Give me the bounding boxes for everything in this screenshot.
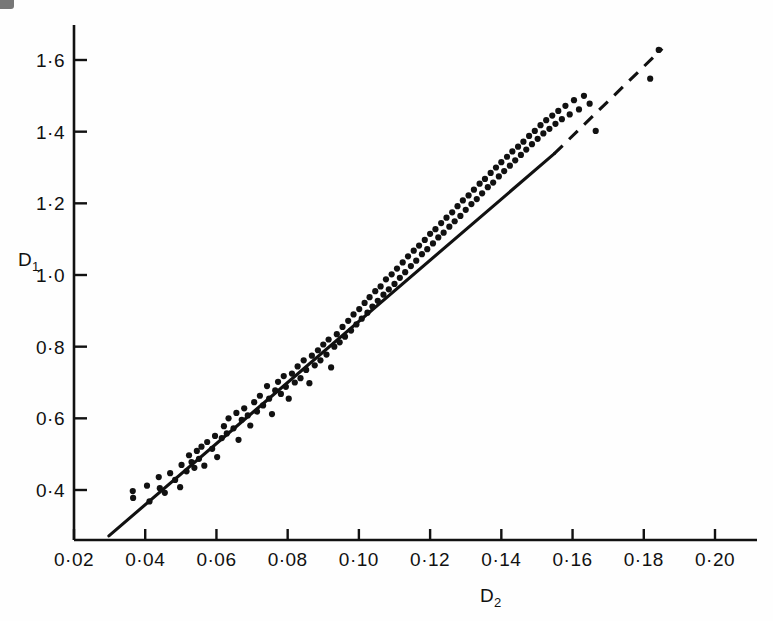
data-point	[432, 226, 438, 232]
data-point	[562, 103, 568, 109]
data-point	[339, 324, 345, 330]
data-point	[504, 154, 510, 160]
data-point	[188, 459, 194, 465]
data-point	[647, 76, 653, 82]
data-point	[320, 341, 326, 347]
data-point	[526, 133, 532, 139]
y-tick-label-3: 1·0	[36, 265, 65, 286]
data-point	[130, 495, 136, 501]
data-point	[559, 116, 565, 122]
data-point	[198, 444, 204, 450]
data-point	[204, 439, 210, 445]
data-point	[167, 470, 173, 476]
data-point	[523, 146, 529, 152]
data-point	[221, 423, 227, 429]
data-point	[509, 148, 515, 154]
data-point	[247, 422, 253, 428]
data-point	[235, 437, 241, 443]
data-point	[375, 298, 381, 304]
data-point	[369, 303, 375, 309]
data-point	[301, 357, 307, 363]
data-point	[490, 179, 496, 185]
data-point	[383, 276, 389, 282]
x-axis-title-letter: D	[480, 585, 494, 606]
x-axis-tick-labels: 0·020·040·060·080·100·120·140·160·180·20	[54, 549, 735, 570]
data-point	[529, 141, 535, 147]
data-point	[477, 181, 483, 187]
data-point	[225, 415, 231, 421]
figure-container: 0·020·040·060·080·100·120·140·160·180·20…	[0, 0, 773, 621]
data-point	[488, 170, 494, 176]
data-point	[177, 484, 183, 490]
data-point	[537, 122, 543, 128]
data-point	[309, 353, 315, 359]
data-point	[233, 410, 239, 416]
data-point	[306, 380, 312, 386]
data-point	[424, 246, 430, 252]
data-point	[295, 363, 301, 369]
data-point	[183, 468, 189, 474]
x-tick-label-6: 0·14	[481, 549, 521, 570]
data-point	[576, 106, 582, 112]
data-point	[186, 452, 192, 458]
data-point	[286, 396, 292, 402]
data-point	[289, 370, 295, 376]
data-point	[457, 213, 463, 219]
data-point	[239, 417, 245, 423]
data-point	[587, 101, 593, 107]
data-point	[427, 231, 433, 237]
data-point	[474, 196, 480, 202]
data-point	[496, 173, 502, 179]
data-point	[419, 251, 425, 257]
data-point	[518, 152, 524, 158]
data-point	[345, 318, 351, 324]
y-axis-title-subscript: 1	[32, 259, 39, 274]
data-point	[656, 47, 662, 53]
data-point	[350, 311, 356, 317]
data-point	[209, 446, 215, 452]
data-point	[555, 108, 561, 114]
data-point	[260, 402, 266, 408]
data-point	[443, 215, 449, 221]
data-point	[359, 316, 365, 322]
data-point	[482, 176, 488, 182]
data-point	[498, 159, 504, 165]
data-point	[386, 286, 392, 292]
data-point	[292, 379, 298, 385]
y-tick-label-4: 1·2	[36, 193, 65, 214]
data-point	[144, 483, 150, 489]
data-point	[241, 405, 247, 411]
axis-lines	[74, 25, 757, 540]
y-tick-label-5: 1·4	[36, 122, 65, 143]
data-point	[172, 477, 178, 483]
data-point	[581, 93, 587, 99]
data-point	[593, 128, 599, 134]
data-point	[405, 253, 411, 259]
regression-line-dashed	[554, 49, 662, 154]
y-axis-ticks	[74, 60, 87, 490]
data-point	[214, 454, 220, 460]
data-point	[194, 448, 200, 454]
data-point	[546, 126, 552, 132]
data-point	[317, 357, 323, 363]
data-point	[334, 331, 340, 337]
data-point	[515, 144, 521, 150]
data-point	[297, 375, 303, 381]
data-point	[272, 387, 278, 393]
data-point	[157, 485, 163, 491]
data-point	[278, 391, 284, 397]
y-tick-label-2: 0·8	[36, 337, 65, 358]
x-axis-ticks	[74, 529, 715, 540]
x-tick-label-8: 0·18	[624, 549, 664, 570]
data-point	[408, 263, 414, 269]
data-point	[535, 136, 541, 142]
y-tick-label-1: 0·6	[36, 408, 65, 429]
data-point	[532, 128, 538, 134]
data-point	[303, 367, 309, 373]
data-point	[402, 269, 408, 275]
data-point	[283, 384, 289, 390]
data-point	[337, 339, 343, 345]
data-point	[520, 139, 526, 145]
data-point	[454, 203, 460, 209]
data-point	[326, 336, 332, 342]
